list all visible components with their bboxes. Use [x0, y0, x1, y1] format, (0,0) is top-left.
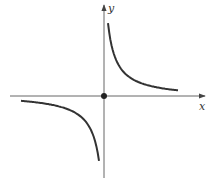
origin-point — [101, 93, 107, 99]
x-axis-label: x — [199, 100, 206, 113]
hyperbola-chart: y x — [0, 0, 214, 189]
curve-upper-branch — [108, 23, 178, 90]
y-axis-label: y — [107, 2, 115, 15]
curve-lower-branch — [21, 101, 99, 161]
